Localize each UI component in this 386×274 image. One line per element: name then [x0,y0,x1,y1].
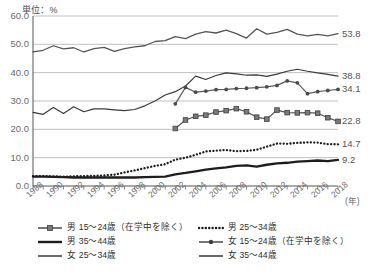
y-axis-tick-0.0: 0.0 [0,180,29,191]
legend-item-label: 女 35～44歳 [228,250,277,261]
end-label-3: 14.7 [342,138,361,149]
end-label-5: 53.8 [342,28,361,39]
end-label-2: 38.8 [342,70,361,81]
y-axis-tick-50.0: 50.0 [0,38,29,49]
legend-item[interactable]: 男 15～24歳（在学中を除く） [37,222,188,233]
legend-item-label: 女 15～24歳（在学中を除く） [228,236,349,247]
legend-marker-icon [198,251,224,261]
y-axis-tick-20.0: 20.0 [0,123,29,134]
chart-legend: 男 15～24歳（在学中を除く）男 35～44歳女 25～34歳男 25～34歳… [0,222,386,261]
chart-container: 単位：% 0.010.020.030.040.050.060.0 1988199… [0,0,386,274]
x-axis-unit-label: (年) [345,194,360,206]
legend-item-label: 女 25～34歳 [67,250,116,261]
legend-marker-icon [198,237,224,247]
end-label-4: 34.1 [342,83,361,94]
legend-item[interactable]: 女 25～34歳 [37,250,188,261]
legend-column-1: 男 25～34歳女 15～24歳（在学中を除く）女 35～44歳 [198,222,349,261]
legend-item-label: 男 35～44歳 [67,236,116,247]
y-axis-tick-40.0: 40.0 [0,67,29,78]
legend-item-label: 男 15～24歳（在学中を除く） [67,222,188,233]
end-label-0: 22.8 [342,115,361,126]
legend-item-label: 男 25～34歳 [228,222,277,233]
legend-item[interactable]: 女 15～24歳（在学中を除く） [198,236,349,247]
end-label-1: 9.2 [342,154,355,165]
legend-item[interactable]: 男 35～44歳 [37,236,188,247]
legend-item[interactable]: 女 35～44歳 [198,250,349,261]
legend-item[interactable]: 男 25～34歳 [198,222,349,233]
y-axis-tick-10.0: 10.0 [0,152,29,163]
legend-marker-icon [37,223,63,233]
legend-column-0: 男 15～24歳（在学中を除く）男 35～44歳女 25～34歳 [37,222,188,261]
y-axis-tick-60.0: 60.0 [0,10,29,21]
legend-marker-icon [37,251,63,261]
y-axis-tick-30.0: 30.0 [0,95,29,106]
legend-marker-icon [198,223,224,233]
legend-marker-icon [37,237,63,247]
